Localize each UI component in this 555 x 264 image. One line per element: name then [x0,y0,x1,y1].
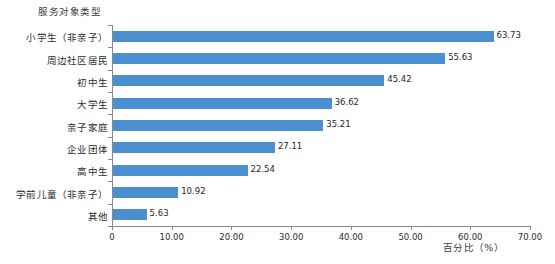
bar-value-label: 5.63 [147,208,169,218]
bar-row: 22.54 [113,165,531,176]
y-axis-tick [108,159,112,160]
x-axis-tick [411,226,412,230]
x-axis-tick-label: 20.00 [219,232,243,242]
y-axis-tick [108,92,112,93]
bar-row: 36.62 [113,98,531,109]
x-axis-tick [291,226,292,230]
x-axis-tick [530,226,531,230]
category-label: 其他 [88,209,108,223]
y-axis-tick [108,47,112,48]
category-label: 亲子家庭 [67,120,108,134]
bar[interactable] [113,98,332,109]
y-axis-tick [108,137,112,138]
bar-row: 45.42 [113,75,531,86]
x-axis-title: 百分比（%） [443,240,504,254]
x-axis-line [112,226,530,227]
y-axis-title: 服务对象类型 [38,4,101,18]
bar-row: 27.11 [113,142,531,153]
bar-value-label: 10.92 [178,186,205,196]
y-axis-tick [108,70,112,71]
bar[interactable] [113,209,147,220]
x-axis-tick [351,226,352,230]
y-axis-tick [108,114,112,115]
bar-row: 55.63 [113,53,531,64]
y-axis-tick [108,204,112,205]
category-label: 大学生 [77,97,108,111]
x-axis-tick [231,226,232,230]
category-label: 初中生 [77,75,108,89]
bar-row: 63.73 [113,31,531,42]
bar-row: 10.92 [113,187,531,198]
y-axis-tick [108,25,112,26]
bar-value-label: 36.62 [332,97,359,107]
bar[interactable] [113,31,494,42]
bar-value-label: 22.54 [248,164,275,174]
x-axis-tick-label: 0 [109,232,114,242]
x-axis-tick [112,226,113,230]
bar[interactable] [113,187,178,198]
category-label: 周边社区居民 [47,53,108,67]
chart-canvas: 服务对象类型 010.0020.0030.0040.0050.0060.0070… [0,0,555,264]
plot-area: 010.0020.0030.0040.0050.0060.0070.0063.7… [112,25,530,226]
x-axis-tick-label: 10.00 [160,232,184,242]
bar-value-label: 35.21 [323,119,350,129]
bar[interactable] [113,75,384,86]
x-axis-tick [172,226,173,230]
category-label: 小学生（非亲子） [26,30,108,44]
bar[interactable] [113,53,445,64]
y-axis-tick [108,226,112,227]
bar-value-label: 63.73 [494,30,521,40]
category-label: 学前儿童（非亲子） [16,187,108,201]
bar[interactable] [113,120,323,131]
x-axis-tick [470,226,471,230]
x-axis-tick-label: 40.00 [339,232,363,242]
x-axis-tick-label: 50.00 [398,232,422,242]
bar-value-label: 45.42 [384,74,411,84]
category-label: 企业团体 [67,142,108,156]
x-axis-tick-label: 30.00 [279,232,303,242]
y-axis-tick [108,181,112,182]
bar[interactable] [113,142,275,153]
x-axis-tick-label: 70.00 [518,232,542,242]
bar-value-label: 27.11 [275,141,302,151]
bar-value-label: 55.63 [445,52,472,62]
bar-row: 5.63 [113,209,531,220]
bar[interactable] [113,165,248,176]
category-label: 高中生 [77,164,108,178]
bar-row: 35.21 [113,120,531,131]
